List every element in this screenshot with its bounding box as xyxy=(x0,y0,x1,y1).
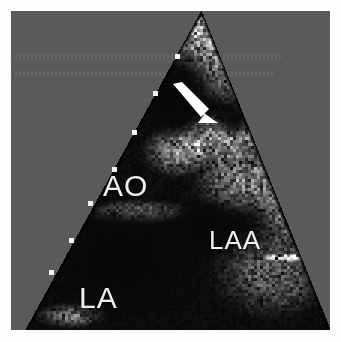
b-mode-sector-image xyxy=(11,11,330,330)
label-laa: LAA xyxy=(209,227,261,253)
depth-marker-4 xyxy=(88,201,93,206)
depth-marker-2 xyxy=(132,130,137,135)
label-ao: AO xyxy=(103,171,148,201)
depth-marker-6 xyxy=(49,270,54,275)
depth-marker-0 xyxy=(175,54,180,59)
depth-marker-1 xyxy=(153,91,158,96)
depth-marker-5 xyxy=(69,238,74,243)
label-la: LA xyxy=(79,283,118,313)
ultrasound-scan-frame: AO LAA LA xyxy=(11,11,330,330)
echocardiogram-figure: AO LAA LA xyxy=(0,0,341,342)
